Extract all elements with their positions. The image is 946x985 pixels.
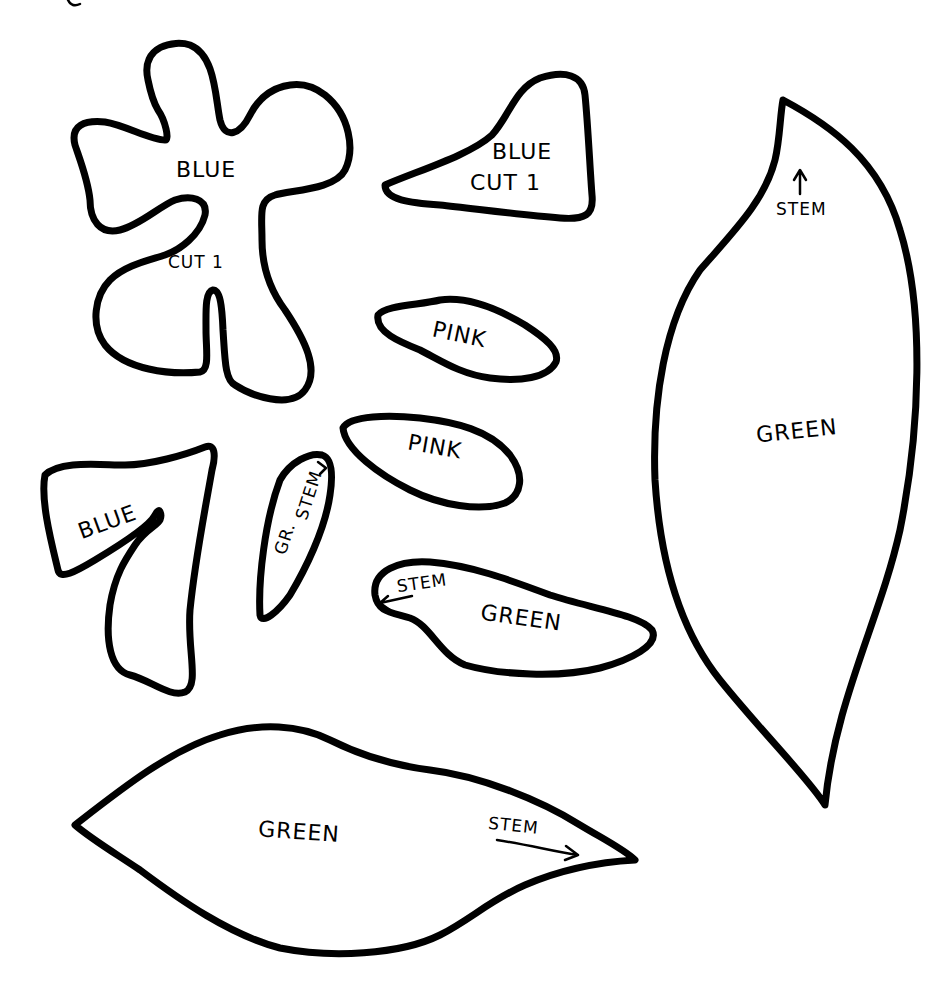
blue-seven-piece: BLUE [44,446,214,693]
flower-piece: BLUE CUT 1 [74,43,350,400]
flower-label-color: BLUE [176,157,236,182]
green-leaf-tall-piece: STEM GREEN [655,100,917,805]
flower-label-cut: CUT 1 [168,252,224,272]
pattern-sheet: BLUE CUT 1 BLUE CUT 1 PINK PINK BLUE STE… [0,0,946,985]
pink-petal-1-piece: PINK [378,299,557,379]
triangle-petal-piece: BLUE CUT 1 [385,74,592,218]
triangle-petal-label-color: BLUE [492,139,552,164]
small-stem-leaf-piece: STEM GR. [260,454,332,618]
triangle-petal-label-cut: CUT 1 [470,170,541,195]
green-leaf-small-piece: STEM GREEN [375,562,654,674]
green-leaf-wide-piece: GREEN STEM [75,727,635,954]
page-edge-mark [68,0,80,5]
green-leaf-tall-label-stem: STEM [776,199,827,219]
pink-petal-2-piece: PINK [343,416,520,507]
